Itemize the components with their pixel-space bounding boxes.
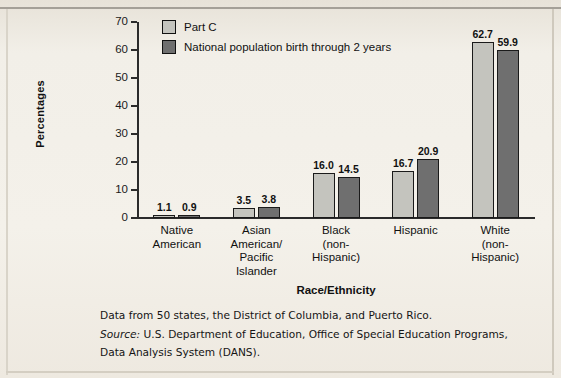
page-frame-right	[552, 9, 554, 375]
bar-chart: Percentages 010203040506070 Part C Natio…	[14, 12, 547, 300]
page-frame-bottom	[6, 371, 554, 373]
y-axis-label-60: 60	[98, 44, 128, 54]
figure-notes: Data from 50 states, the District of Col…	[100, 308, 530, 364]
y-axis-label-50: 50	[98, 72, 128, 82]
bar-black-non-hispanic-part-c	[313, 173, 335, 218]
source-text-line2: Data Analysis System (DANS).	[100, 345, 530, 361]
y-axis-label-40: 40	[98, 100, 128, 110]
bar-value-white-non-hispanic-national: 59.9	[488, 36, 528, 48]
bar-value-asian-american-pacific-islander-national: 3.8	[249, 193, 289, 205]
y-axis-label-wrap-40: 40	[94, 100, 128, 110]
x-axis-label-line: (non-	[288, 238, 384, 252]
plot-area: Percentages 010203040506070 Part C Natio…	[14, 12, 547, 300]
bar-groups: 1.10.93.53.816.014.516.720.962.759.9	[137, 22, 535, 218]
x-axis-title: Race/Ethnicity	[137, 284, 535, 296]
bar-hispanic-part-c	[392, 171, 414, 218]
x-axis-label-line: (non-	[447, 238, 543, 252]
bar-asian-american-pacific-islander-part-c	[233, 208, 255, 218]
source-label: Source:	[100, 328, 140, 340]
bar-native-american-part-c	[153, 215, 175, 218]
y-axis-label-10: 10	[98, 184, 128, 194]
y-axis-label-0: 0	[98, 212, 128, 222]
page-frame-left	[6, 9, 8, 375]
note-source: Source: U.S. Department of Education, Of…	[100, 327, 530, 343]
y-axis-label-wrap-20: 20	[94, 156, 128, 166]
y-axis-label-70: 70	[98, 16, 128, 26]
y-axis-label-20: 20	[98, 156, 128, 166]
bar-black-non-hispanic-national	[338, 177, 360, 218]
y-axis-label-wrap-30: 30	[94, 128, 128, 138]
bar-asian-american-pacific-islander-national	[258, 207, 280, 218]
bar-white-non-hispanic-national	[497, 50, 519, 218]
x-axis-label-line: Islander	[208, 265, 304, 279]
y-axis-label-wrap-70: 70	[94, 16, 128, 26]
bar-group-asian-american-pacific-islander: 3.53.8	[233, 22, 280, 218]
x-axis-label-white-non-hispanic: White(non-Hispanic)	[447, 224, 543, 265]
note-data-source: Data from 50 states, the District of Col…	[100, 308, 530, 324]
y-axis-label-wrap-50: 50	[94, 72, 128, 82]
page-top-rule	[0, 7, 561, 9]
y-axis-label-wrap-10: 10	[94, 184, 128, 194]
y-axis-label-wrap-0: 0	[94, 212, 128, 222]
bar-group-black-non-hispanic: 16.014.5	[313, 22, 360, 218]
bar-group-hispanic: 16.720.9	[392, 22, 439, 218]
source-text-line1: U.S. Department of Education, Office of …	[140, 328, 508, 340]
bar-group-native-american: 1.10.9	[153, 22, 200, 218]
bar-group-white-non-hispanic: 62.759.9	[472, 22, 519, 218]
x-axis-label-line: White	[447, 224, 543, 238]
bar-native-american-national	[178, 215, 200, 218]
bar-value-native-american-national: 0.9	[169, 201, 209, 213]
bar-white-non-hispanic-part-c	[472, 42, 494, 218]
bar-hispanic-national	[417, 159, 439, 218]
figure: Percentages 010203040506070 Part C Natio…	[14, 12, 547, 370]
x-axis-label-line: Hispanic)	[288, 251, 384, 265]
y-axis-title: Percentages	[34, 54, 46, 174]
y-axis-label-wrap-60: 60	[94, 44, 128, 54]
bar-value-black-non-hispanic-national: 14.5	[329, 163, 369, 175]
bar-value-hispanic-national: 20.9	[408, 145, 448, 157]
y-axis-label-30: 30	[98, 128, 128, 138]
x-axis-label-line: Hispanic)	[447, 251, 543, 265]
